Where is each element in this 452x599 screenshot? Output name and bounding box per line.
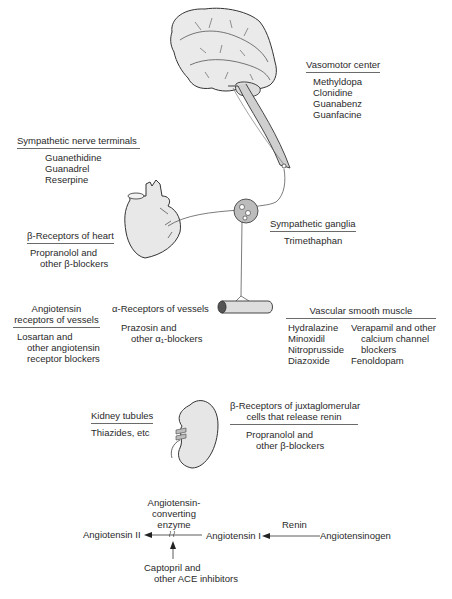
drug-label: Guanethidine xyxy=(45,152,140,163)
title-line: Angiotensin xyxy=(13,303,100,314)
vasomotor-center-title: Vasomotor center xyxy=(306,59,380,73)
ace-label-line: Angiotensin- xyxy=(144,497,204,508)
heart-icon xyxy=(125,180,181,258)
drug-label: other α₁-blockers xyxy=(121,333,209,344)
drug-label: Propranolol and xyxy=(246,429,358,440)
angiotensin-receptors-block: Angiotensin receptors of vessels Losarta… xyxy=(13,303,100,364)
drug-label: calcium channel xyxy=(351,333,436,344)
sympathetic-nerve-terminals-title: Sympathetic nerve terminals xyxy=(17,135,140,149)
nerve-fiber-line xyxy=(250,169,285,208)
drug-label: Thiazides, etc xyxy=(91,427,153,438)
beta-receptors-heart-title: β-Receptors of heart xyxy=(27,230,114,244)
beta-receptors-juxtaglomerular-block: β-Receptors of juxtaglomerular cells tha… xyxy=(230,400,358,451)
ace-inhibitors-block: Captopril and other ACE inhibitors xyxy=(144,562,238,584)
drug-label: Minoxidil xyxy=(288,333,351,344)
kidney-tubules-title: Kidney tubules xyxy=(91,410,153,424)
ace-label: Angiotensin- converting enzyme xyxy=(144,497,204,530)
title-line: receptors of vessels xyxy=(13,314,100,325)
angiotensin-ii-label: Angiotensin II xyxy=(83,529,141,540)
drug-label: Clonidine xyxy=(313,87,380,98)
sympathetic-ganglia-block: Sympathetic ganglia Trimethaphan xyxy=(270,218,356,246)
drug-label: other β-blockers xyxy=(30,258,114,269)
drug-label: Hydralazine xyxy=(288,322,351,333)
drug-label: other β-blockers xyxy=(246,440,358,451)
vascular-smooth-muscle-title: Vascular smooth muscle xyxy=(286,305,436,319)
sympathetic-nerve-terminals-block: Sympathetic nerve terminals Guanethidine… xyxy=(17,135,140,185)
drug-label: Trimethaphan xyxy=(284,235,356,246)
title-line: cells that release renin xyxy=(230,411,358,422)
drug-label: Nitroprusside xyxy=(288,344,351,355)
renin-label: Renin xyxy=(282,519,307,530)
drug-label: Fenoldopam xyxy=(351,355,436,366)
sympathetic-ganglion-icon xyxy=(234,199,258,223)
drug-label: Captopril and xyxy=(144,562,238,573)
angiotensinogen-label: Angiotensinogen xyxy=(320,530,391,541)
blood-vessel-icon xyxy=(218,301,273,313)
sympathetic-ganglia-title: Sympathetic ganglia xyxy=(270,218,356,232)
angiotensin-receptors-title: Angiotensin receptors of vessels xyxy=(13,303,100,328)
diagram-illustrations xyxy=(0,0,452,599)
alpha-receptors-block: α-Receptors of vessels Prazosin and othe… xyxy=(112,303,209,344)
angiotensin-i-label: Angiotensin I xyxy=(206,530,261,541)
title-line: β-Receptors of juxtaglomerular xyxy=(230,400,358,411)
beta-receptors-juxtaglomerular-title: β-Receptors of juxtaglomerular cells tha… xyxy=(230,400,358,425)
drug-label: Reserpine xyxy=(45,174,140,185)
drug-label: other angiotensin xyxy=(17,342,100,353)
drug-label: Prazosin and xyxy=(121,322,209,333)
drug-label: Guanfacine xyxy=(313,109,380,120)
drug-label: receptor blockers xyxy=(17,353,100,364)
drug-label: Propranolol and xyxy=(30,247,114,258)
drug-label: Guanadrel xyxy=(45,163,140,174)
kidney-icon xyxy=(171,401,218,468)
drug-column: Verapamil and other calcium channel bloc… xyxy=(351,322,436,366)
drug-column: Hydralazine Minoxidil Nitroprusside Diaz… xyxy=(288,322,351,366)
vascular-smooth-muscle-block: Vascular smooth muscle Hydralazine Minox… xyxy=(286,305,436,366)
drug-label: Methyldopa xyxy=(313,76,380,87)
ace-label-line: enzyme xyxy=(144,519,204,530)
kidney-tubules-block: Kidney tubules Thiazides, etc xyxy=(91,410,153,438)
alpha-receptors-title: α-Receptors of vessels xyxy=(112,303,209,316)
drug-label: other ACE inhibitors xyxy=(144,573,238,584)
beta-receptors-heart-block: β-Receptors of heart Propranolol and oth… xyxy=(27,230,114,269)
drug-label: blockers xyxy=(351,344,436,355)
drug-label: Verapamil and other xyxy=(351,322,436,333)
drug-label: Guanabenz xyxy=(313,98,380,109)
drug-label: Diazoxide xyxy=(288,355,351,366)
drug-label: Losartan and xyxy=(17,331,100,342)
vasomotor-center-block: Vasomotor center Methyldopa Clonidine Gu… xyxy=(306,59,380,120)
brain-icon xyxy=(171,8,290,168)
ace-label-line: converting xyxy=(144,508,204,519)
